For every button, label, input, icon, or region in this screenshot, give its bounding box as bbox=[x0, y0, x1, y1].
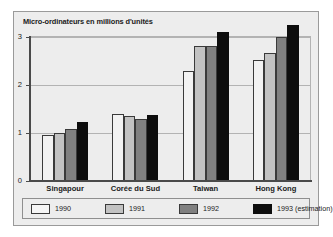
bar bbox=[42, 135, 54, 181]
plot-area bbox=[30, 36, 311, 181]
x-axis bbox=[29, 180, 312, 182]
bar bbox=[147, 115, 159, 181]
bar bbox=[253, 60, 265, 181]
bar bbox=[287, 25, 299, 181]
legend-label: 1990 bbox=[55, 204, 71, 213]
bar bbox=[77, 122, 89, 181]
legend-label: 1991 bbox=[129, 204, 145, 213]
y-axis bbox=[29, 36, 31, 182]
bar bbox=[276, 37, 288, 181]
bar bbox=[124, 116, 136, 181]
y-tick-label-0: 0 bbox=[8, 176, 22, 185]
bar bbox=[65, 129, 77, 181]
legend-swatch bbox=[253, 204, 272, 214]
y-tick-mark-3 bbox=[26, 37, 30, 38]
chart-title: Micro-ordinateurs en millions d'unités bbox=[23, 17, 153, 26]
bar bbox=[194, 46, 206, 181]
legend: 1990199119921993 (estimation) bbox=[22, 198, 310, 219]
bar bbox=[217, 32, 229, 181]
y-tick-mark-1 bbox=[26, 133, 30, 134]
y-tick-label-2: 2 bbox=[8, 80, 22, 89]
category-label: Taiwan bbox=[171, 184, 241, 193]
category-label: Hong Kong bbox=[241, 184, 311, 193]
y-tick-mark-2 bbox=[26, 85, 30, 86]
bar bbox=[54, 133, 66, 181]
bar-group bbox=[253, 36, 299, 181]
legend-swatch bbox=[31, 204, 50, 214]
bar-group bbox=[183, 36, 229, 181]
bar bbox=[264, 53, 276, 181]
bar bbox=[135, 119, 147, 181]
category-label: Singapour bbox=[30, 184, 100, 193]
bar-group bbox=[112, 36, 158, 181]
y-tick-mark-0 bbox=[26, 181, 30, 182]
y-tick-label-3: 3 bbox=[8, 32, 22, 41]
bar bbox=[183, 71, 195, 181]
bar bbox=[112, 114, 124, 181]
y-tick-label-1: 1 bbox=[8, 128, 22, 137]
legend-swatch bbox=[105, 204, 124, 214]
legend-label: 1992 bbox=[203, 204, 219, 213]
legend-swatch bbox=[179, 204, 198, 214]
bar bbox=[206, 46, 218, 181]
category-label: Corée du Sud bbox=[100, 184, 170, 193]
bar-group bbox=[42, 36, 88, 181]
legend-label: 1993 (estimation) bbox=[277, 204, 333, 213]
